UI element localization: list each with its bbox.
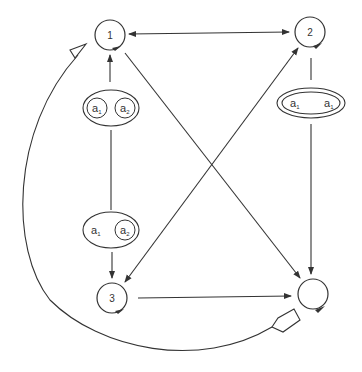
edge-4-to-1-curve (23, 55, 272, 351)
item-label: a1 (290, 97, 300, 110)
item-label: a1 (91, 224, 101, 237)
group-bottom-left: a1 a2 (83, 212, 139, 248)
hollow-arrowhead-icon (70, 44, 86, 58)
group-right: a1 a1 (277, 88, 345, 118)
node-1-label: 1 (107, 30, 113, 41)
node-1: 1 (95, 20, 125, 51)
self-loop-arrow-icon (112, 46, 121, 51)
edge-3-2 (125, 48, 298, 282)
hollow-tail-icon (272, 309, 300, 332)
group-top-left: a1 a2 (83, 90, 139, 126)
node-2: 2 (295, 17, 325, 49)
node-3-label: 3 (109, 293, 115, 304)
node-4 (298, 279, 328, 313)
item-label: a1 (324, 97, 334, 110)
edge-3-4 (138, 296, 291, 298)
state-diagram: 1 2 3 a1 a2 a1 a2 (0, 0, 362, 372)
item-label: a2 (120, 102, 130, 115)
item-label: a1 (92, 102, 102, 115)
edge-1-2 (129, 32, 289, 34)
node-3: 3 (97, 283, 127, 314)
edge-1-4 (125, 53, 300, 278)
self-loop-arrow-icon (313, 43, 322, 49)
node-2-label: 2 (307, 27, 313, 38)
self-loop-arrow-icon (115, 309, 124, 314)
item-label: a2 (120, 224, 130, 237)
